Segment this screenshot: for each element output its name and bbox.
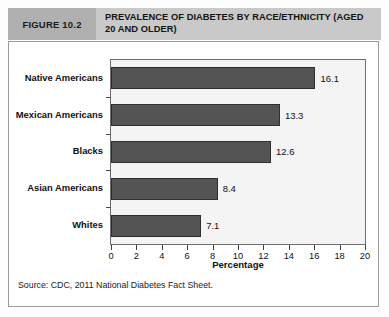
figure-number-badge: FIGURE 10.2 [8, 8, 96, 40]
bar-row: 16.1 [111, 60, 365, 97]
category-label: Blacks [9, 133, 103, 170]
x-axis-tick [238, 245, 239, 250]
x-axis-tick [162, 245, 163, 250]
x-axis-tick [111, 245, 112, 250]
x-axis-tick [187, 245, 188, 250]
bar [111, 141, 271, 163]
x-axis-tick [136, 245, 137, 250]
bar [111, 104, 280, 126]
category-label: Native Americans [9, 59, 103, 96]
bar-value-label: 12.6 [276, 146, 295, 157]
category-label: Asian Americans [9, 169, 103, 206]
figure-container: FIGURE 10.2 PREVALENCE OF DIABETES BY RA… [0, 0, 389, 317]
x-axis-tick [213, 245, 214, 250]
category-label-text: Asian Americans [27, 182, 103, 193]
y-axis-tick [106, 170, 111, 171]
bar-value-label: 8.4 [223, 183, 236, 194]
bar [111, 178, 218, 200]
bar [111, 67, 315, 89]
figure-title-container: PREVALENCE OF DIABETES BY RACE/ETHNICITY… [96, 8, 381, 40]
figure-body: Native AmericansMexican AmericansBlacksA… [8, 41, 379, 307]
bar-chart: Native AmericansMexican AmericansBlacksA… [9, 42, 380, 274]
y-axis-tick [106, 207, 111, 208]
y-axis-tick [106, 97, 111, 98]
bar-value-label: 7.1 [206, 220, 219, 231]
category-label-text: Mexican Americans [16, 109, 103, 120]
category-label-text: Blacks [73, 145, 103, 156]
x-axis-tick [289, 245, 290, 250]
bar-row: 13.3 [111, 97, 365, 134]
category-label: Whites [9, 206, 103, 243]
category-label-text: Whites [72, 219, 103, 230]
x-axis-tick [263, 245, 264, 250]
figure-header: FIGURE 10.2 PREVALENCE OF DIABETES BY RA… [8, 8, 381, 40]
x-axis-title: Percentage [110, 259, 366, 270]
y-axis-tick [106, 134, 111, 135]
category-label-text: Native Americans [25, 72, 103, 83]
bars-layer: 16.113.312.68.47.1 [111, 60, 365, 244]
x-axis-tick [365, 245, 366, 250]
bar-value-label: 13.3 [285, 110, 304, 121]
bar-row: 8.4 [111, 170, 365, 207]
category-label: Mexican Americans [9, 96, 103, 133]
figure-number-label: FIGURE 10.2 [22, 19, 81, 30]
plot-area: 16.113.312.68.47.1 [110, 59, 366, 245]
x-axis-tick [340, 245, 341, 250]
category-axis-labels: Native AmericansMexican AmericansBlacksA… [9, 59, 108, 245]
bar-row: 7.1 [111, 207, 365, 244]
bar [111, 215, 201, 237]
x-axis-tick [314, 245, 315, 250]
source-note: Source: CDC, 2011 National Diabetes Fact… [18, 280, 213, 290]
bar-row: 12.6 [111, 134, 365, 171]
bar-value-label: 16.1 [320, 73, 339, 84]
figure-title: PREVALENCE OF DIABETES BY RACE/ETHNICITY… [105, 12, 375, 36]
